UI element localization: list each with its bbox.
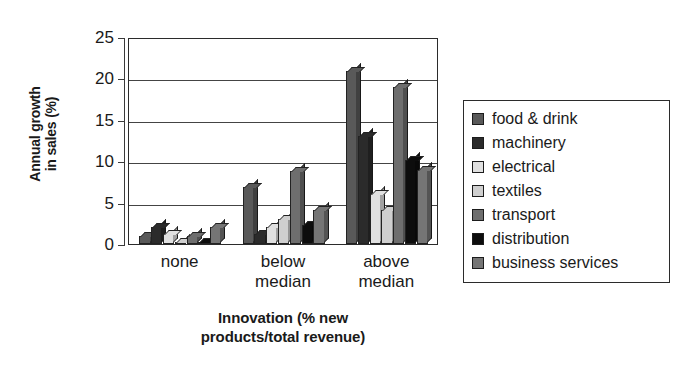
legend-label: distribution: [492, 231, 569, 247]
bar-chart-figure: Annual growth in sales (%) 0510152025 no…: [0, 0, 688, 372]
legend-swatch: [472, 137, 484, 149]
legend-swatch: [472, 209, 484, 221]
bar-top-face: [371, 190, 389, 195]
bar-top-face: [152, 223, 170, 228]
bar: [381, 210, 392, 244]
bar-group: [232, 39, 335, 244]
legend-label: electrical: [492, 159, 555, 175]
bar: [346, 71, 357, 244]
bar-top-face: [188, 232, 206, 237]
bar: [210, 227, 221, 244]
bar-top-face: [291, 167, 309, 172]
x-axis-title: Innovation (% new products/total revenue…: [118, 308, 448, 346]
bar: [417, 170, 428, 244]
y-tick-label: 25: [95, 29, 114, 46]
legend-label: textiles: [492, 183, 542, 199]
bar-group: [129, 39, 232, 244]
bar: [290, 171, 301, 244]
bar: [313, 210, 324, 244]
legend-swatch: [472, 113, 484, 125]
plot-area: [128, 38, 438, 245]
bar: [278, 219, 289, 244]
legend-swatch: [472, 161, 484, 173]
legend-item: transport: [472, 203, 661, 227]
legend-label: food & drink: [492, 111, 577, 127]
bar-top-face: [394, 83, 412, 88]
bar-top-face: [164, 230, 182, 235]
y-tick-label: 5: [105, 195, 114, 212]
bar: [266, 227, 277, 244]
bar: [175, 242, 186, 244]
bar: [405, 160, 416, 244]
x-axis-category-labels: nonebelow medianabove median: [128, 252, 438, 298]
y-axis-outer-rule: [124, 38, 125, 246]
x-category-label: above median: [335, 252, 438, 292]
bar: [370, 194, 381, 244]
bar-top-face: [314, 206, 332, 211]
legend-item: business services: [472, 251, 661, 275]
bar: [139, 236, 150, 244]
legend-item: electrical: [472, 155, 661, 179]
bar: [243, 187, 254, 244]
y-tick-label: 0: [105, 236, 114, 253]
bar: [151, 227, 162, 244]
bar-top-face: [347, 67, 365, 72]
bar-group: [336, 39, 439, 244]
bar-top-face: [406, 156, 424, 161]
legend-label: business services: [492, 255, 618, 271]
bar: [163, 234, 174, 244]
bar-series-container: [129, 39, 437, 244]
x-category-label: none: [128, 252, 231, 272]
bar: [254, 234, 265, 244]
legend-label: transport: [492, 207, 555, 223]
y-tick-label: 20: [95, 70, 114, 87]
bar-top-face: [359, 132, 377, 137]
bar-top-face: [418, 166, 436, 171]
bar: [187, 236, 198, 244]
legend-item: machinery: [472, 131, 661, 155]
legend-swatch: [472, 257, 484, 269]
legend-swatch: [472, 185, 484, 197]
legend: food & drinkmachineryelectricaltextilest…: [463, 100, 670, 283]
bar-top-face: [244, 183, 262, 188]
legend-label: machinery: [492, 135, 566, 151]
bar: [393, 87, 404, 244]
bar: [198, 242, 209, 244]
x-category-label: below median: [231, 252, 334, 292]
y-axis-tick-labels: 0510152025: [0, 38, 124, 245]
legend-item: distribution: [472, 227, 661, 251]
legend-swatch: [472, 233, 484, 245]
bar-top-face: [211, 223, 229, 228]
y-tick-label: 15: [95, 112, 114, 129]
y-tick-label: 10: [95, 153, 114, 170]
bar-side-face: [427, 162, 432, 243]
legend-item: food & drink: [472, 107, 661, 131]
legend-item: textiles: [472, 179, 661, 203]
bar: [302, 225, 313, 244]
bar: [358, 136, 369, 244]
